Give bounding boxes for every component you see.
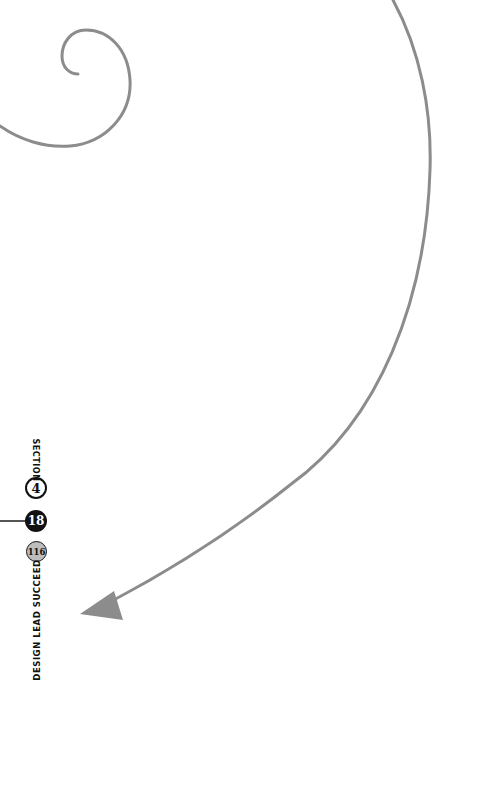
curved-arrow-line-icon xyxy=(110,0,430,602)
section-label: SECTION xyxy=(31,439,41,482)
spiral-curl-icon xyxy=(0,30,130,146)
book-title-footer: DESIGN LEAD SUCCEED xyxy=(31,559,42,680)
section-number-badge: 4 xyxy=(25,477,47,499)
chapter-number-badge: 18 xyxy=(25,510,47,532)
chapter-rule xyxy=(0,520,26,522)
decorative-artwork xyxy=(0,0,478,804)
arrowhead-icon xyxy=(80,591,123,620)
